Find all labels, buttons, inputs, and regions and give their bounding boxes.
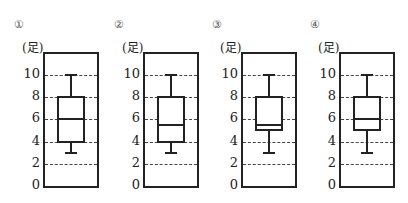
y-tick-label: 10 xyxy=(314,66,336,81)
iqr-box xyxy=(353,96,381,131)
max-cap xyxy=(65,74,77,76)
y-tick-label: 10 xyxy=(216,66,238,81)
y-tick-label: 2 xyxy=(118,155,140,170)
y-tick-label: 6 xyxy=(216,110,238,125)
y-tick-label: 8 xyxy=(18,88,40,103)
y-tick-label: 4 xyxy=(118,133,140,148)
panel-number: ① xyxy=(14,18,24,31)
y-tick-label: 6 xyxy=(118,110,140,125)
max-cap xyxy=(361,74,373,76)
min-cap xyxy=(65,152,77,154)
min-cap xyxy=(165,152,177,154)
boxplot-panel-2: ②(足)0246810 xyxy=(100,0,202,203)
upper-whisker xyxy=(170,75,172,97)
y-tick-label: 0 xyxy=(18,177,40,192)
y-tick-label: 10 xyxy=(18,66,40,81)
median-line xyxy=(57,118,85,120)
y-tick-label: 0 xyxy=(118,177,140,192)
upper-whisker xyxy=(70,75,72,97)
y-axis-unit-label: (足) xyxy=(318,38,339,55)
gridline xyxy=(45,164,97,165)
median-line xyxy=(255,124,283,126)
y-tick-label: 4 xyxy=(314,133,336,148)
upper-whisker xyxy=(366,75,368,97)
gridline xyxy=(243,164,295,165)
lower-whisker xyxy=(366,131,368,153)
gridline xyxy=(145,164,197,165)
y-axis-unit-label: (足) xyxy=(122,38,143,55)
iqr-box xyxy=(255,96,283,131)
y-tick-label: 2 xyxy=(216,155,238,170)
y-tick-label: 2 xyxy=(314,155,336,170)
boxplot-panel-4: ④(足)0246810 xyxy=(296,0,398,203)
y-tick-label: 4 xyxy=(18,133,40,148)
boxplot-panel-3: ③(足)0246810 xyxy=(198,0,300,203)
min-cap xyxy=(361,152,373,154)
y-tick-label: 6 xyxy=(314,110,336,125)
y-tick-label: 0 xyxy=(314,177,336,192)
upper-whisker xyxy=(268,75,270,97)
y-tick-label: 4 xyxy=(216,133,238,148)
panel-number: ③ xyxy=(212,18,222,31)
y-tick-label: 8 xyxy=(118,88,140,103)
y-axis-unit-label: (足) xyxy=(220,38,241,55)
boxplot-panel-1: ①(足)0246810 xyxy=(0,0,102,203)
iqr-box xyxy=(157,96,185,142)
min-cap xyxy=(263,152,275,154)
y-tick-label: 6 xyxy=(18,110,40,125)
panel-number: ④ xyxy=(310,18,320,31)
lower-whisker xyxy=(268,131,270,153)
median-line xyxy=(353,118,381,120)
y-tick-label: 10 xyxy=(118,66,140,81)
max-cap xyxy=(263,74,275,76)
max-cap xyxy=(165,74,177,76)
y-tick-label: 8 xyxy=(314,88,336,103)
gridline xyxy=(341,164,393,165)
y-tick-label: 8 xyxy=(216,88,238,103)
y-tick-label: 0 xyxy=(216,177,238,192)
panel-number: ② xyxy=(114,18,124,31)
median-line xyxy=(157,124,185,126)
y-axis-unit-label: (足) xyxy=(22,38,43,55)
y-tick-label: 2 xyxy=(18,155,40,170)
